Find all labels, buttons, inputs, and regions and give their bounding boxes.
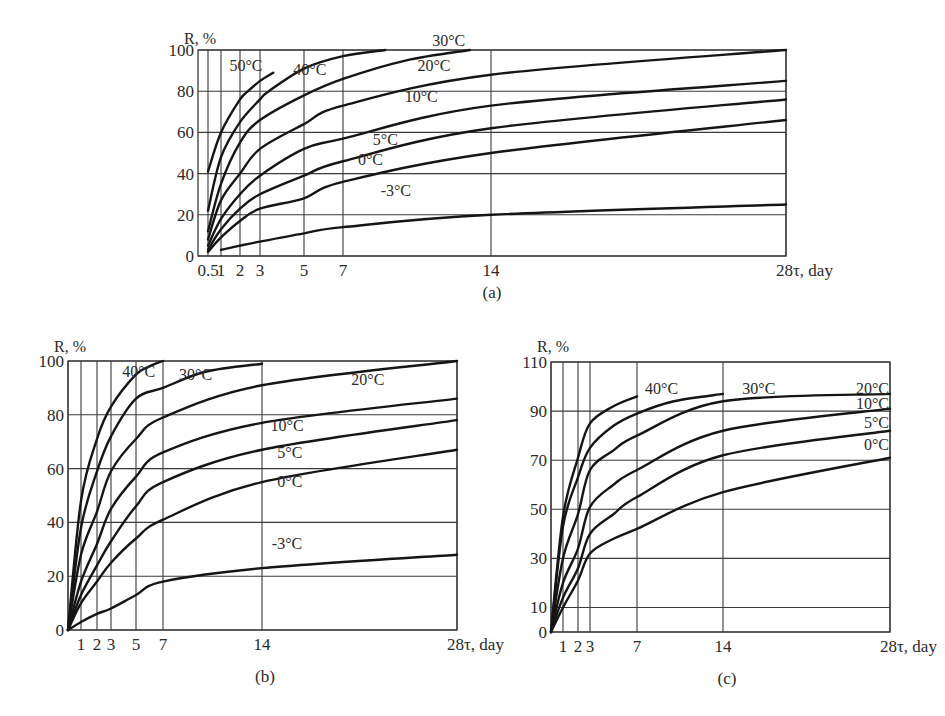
curve-label: 50°C	[229, 57, 262, 74]
x-tick-label: 2	[574, 637, 583, 656]
x-tick-label: 7	[633, 637, 642, 656]
curve-20c	[208, 50, 786, 240]
x-tick-label: 3	[586, 637, 595, 656]
y-tick-label: 10	[530, 598, 547, 617]
curve-label: 0°C	[277, 473, 302, 490]
curve-label: 0°C	[864, 436, 889, 453]
y-axis-label: R, %	[184, 30, 216, 47]
x-tick-label: 7	[159, 635, 168, 654]
x-tick-label: 7	[339, 261, 348, 280]
curve-label: 10°C	[856, 395, 889, 412]
x-tick-label: 2	[93, 635, 102, 654]
panel-caption: (a)	[483, 283, 502, 302]
y-tick-label: 30	[530, 549, 547, 568]
y-tick-label: 80	[47, 406, 64, 425]
y-tick-label: 60	[47, 460, 64, 479]
x-tick-label: 14	[483, 261, 501, 280]
x-tick-label: 5	[132, 635, 141, 654]
x-tick-label: 1	[559, 637, 568, 656]
curve-5c	[208, 99, 786, 249]
curve-label: 10°C	[405, 88, 438, 105]
chart-b: 020406080100123571428τ, dayR, %40°C30°C2…	[39, 338, 505, 686]
y-tick-label: 20	[47, 567, 64, 586]
curve-label: 40°C	[645, 380, 678, 397]
curve-0c	[551, 458, 890, 632]
curve-5c	[551, 431, 890, 632]
curve-label: 40°C	[122, 363, 155, 380]
x-tick-label: 1	[77, 635, 86, 654]
y-axis-label: R, %	[54, 338, 86, 355]
x-tick-label: 2	[236, 261, 245, 280]
curve-20c	[551, 394, 890, 632]
curve-label: 20°C	[417, 57, 450, 74]
panel-caption: (b)	[255, 667, 275, 686]
panel-caption: (c)	[718, 669, 737, 688]
x-tick-label: 5	[300, 261, 309, 280]
curve-label: 30°C	[432, 32, 465, 49]
curve-label: 5°C	[864, 414, 889, 431]
y-tick-label: 50	[530, 500, 547, 519]
x-tick-label: 14	[254, 635, 272, 654]
chart-c: 0103050709011012371428τ, dayR, %40°C30°C…	[522, 338, 937, 688]
x-tick-label: 0.5	[197, 261, 218, 280]
y-tick-label: 110	[522, 353, 547, 372]
curve-0c	[208, 120, 786, 252]
y-tick-label: 90	[530, 402, 547, 421]
y-tick-label: 40	[177, 165, 194, 184]
curve-label: 40°C	[293, 61, 326, 78]
y-tick-label: 0	[186, 247, 195, 266]
x-tick-label: 3	[107, 635, 116, 654]
charts-canvas: 0204060801000.5123571428τ, dayR, %50°C40…	[0, 0, 945, 716]
curve-label: 5°C	[277, 444, 302, 461]
x-axis-label: 28τ, day	[776, 261, 833, 280]
y-tick-label: 70	[530, 451, 547, 470]
x-axis-label: 28τ, day	[880, 637, 937, 656]
curve-10c	[551, 409, 890, 632]
x-tick-label: 3	[256, 261, 265, 280]
y-tick-label: 20	[177, 206, 194, 225]
curve-minus3c	[221, 205, 786, 250]
x-tick-label: 14	[715, 637, 733, 656]
chart-a: 0204060801000.5123571428τ, dayR, %50°C40…	[169, 30, 834, 302]
y-tick-label: 0	[539, 623, 548, 642]
x-tick-label: 1	[217, 261, 226, 280]
figure: (a) 0204060801000.5123571428τ, dayR, %50…	[0, 0, 945, 716]
curve-label: 10°C	[271, 417, 304, 434]
y-tick-label: 80	[177, 82, 194, 101]
y-axis-label: R, %	[537, 338, 569, 355]
y-tick-label: 40	[47, 513, 64, 532]
curve-label: 0°C	[358, 151, 383, 168]
curve-label: -3°C	[381, 182, 411, 199]
x-axis-label: 28τ, day	[447, 635, 504, 654]
curve-10c	[208, 81, 786, 246]
curve-label: 5°C	[373, 131, 398, 148]
y-tick-label: 60	[177, 123, 194, 142]
curve-label: 20°C	[351, 371, 384, 388]
curve-label: -3°C	[272, 535, 302, 552]
curve-label: 30°C	[742, 380, 775, 397]
y-tick-label: 0	[56, 621, 65, 640]
curve-label: 30°C	[179, 366, 212, 383]
